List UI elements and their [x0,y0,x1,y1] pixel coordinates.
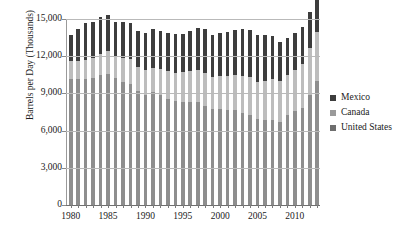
legend-item-canada: Canada [330,105,392,120]
bar-segment-united-states [301,108,305,205]
legend-label-mexico: Mexico [341,90,370,105]
bar-segment-united-states [233,110,237,205]
x-tick-mark [108,205,109,208]
y-tick-mark [62,93,66,94]
bar-segment-canada [166,71,170,98]
x-tick-mark [205,205,206,208]
bar-segment-canada [301,64,305,108]
x-tick-mark [145,205,146,208]
bar [293,33,297,205]
bar-segment-united-states [286,115,290,205]
x-tick-mark [138,205,139,208]
bar-segment-mexico [136,31,140,67]
bar-segment-canada [144,70,148,94]
bar-segment-united-states [121,82,125,205]
bar-segment-canada [136,67,140,91]
bar-segment-canada [114,56,118,78]
bar-segment-mexico [256,35,260,82]
bar-segment-united-states [144,95,148,205]
x-tick-mark [228,205,229,208]
bar-segment-mexico [151,29,155,68]
y-tick-mark [62,19,66,20]
bar-segment-united-states [278,122,282,205]
bar-segment-mexico [174,34,178,73]
bar-segment-united-states [188,102,192,205]
bar-segment-mexico [121,22,125,58]
bar [69,35,73,205]
x-tick-mark [272,205,273,208]
bar-segment-canada [293,70,297,111]
legend-swatch-united-states-icon [330,125,336,131]
bar-segment-united-states [226,110,230,205]
bar-segment-mexico [263,35,267,81]
y-tick-mark [62,168,66,169]
plot-area [66,19,320,205]
bar [278,42,282,205]
x-tick-mark [101,205,102,208]
bar-segment-united-states [218,109,222,205]
x-tick-mark [168,205,169,208]
bar-segment-mexico [293,33,297,70]
bar-segment-mexico [144,33,148,70]
bar [271,36,275,205]
bar [263,35,267,205]
bar-segment-united-states [151,92,155,205]
bar-segment-mexico [315,0,319,32]
bar [218,33,222,205]
bar [114,22,118,205]
bar-segment-canada [76,61,80,79]
x-tick-mark [183,205,184,208]
bar-segment-united-states [263,120,267,205]
x-tick-mark [295,205,296,208]
x-tick-mark [116,205,117,208]
x-tick-mark [213,205,214,208]
y-tick-mark [62,56,66,57]
bar-segment-mexico [203,29,207,72]
x-tick-label: 2010 [275,211,315,221]
x-tick-label: 1980 [51,211,91,221]
bar [315,0,319,205]
bar-group [67,19,320,205]
x-axis-line [66,205,320,206]
x-tick-mark [235,205,236,208]
bar [174,34,178,205]
x-tick-mark [280,205,281,208]
bar [196,28,200,205]
x-tick-mark [250,205,251,208]
bar [301,27,305,205]
x-tick-mark [71,205,72,208]
y-tick-mark [62,205,66,206]
x-tick-mark [310,205,311,208]
legend-label-united-states: United States [341,120,392,135]
bar-segment-canada [188,71,192,102]
bar-segment-united-states [84,79,88,205]
bar-segment-united-states [241,113,245,205]
x-tick-label: 1985 [88,211,128,221]
bar [286,38,290,205]
gridline [66,131,320,132]
gridline [66,56,320,57]
bar-segment-canada [196,70,200,102]
bar [136,31,140,205]
bar-segment-united-states [181,102,185,205]
legend-swatch-mexico-icon [330,95,336,101]
x-tick-mark [86,205,87,208]
bar [308,12,312,205]
legend: Mexico Canada United States [330,90,392,135]
bar-segment-canada [248,77,252,115]
bar-segment-united-states [136,91,140,205]
legend-swatch-canada-icon [330,110,336,116]
bar-segment-canada [84,60,88,78]
bar-segment-united-states [293,111,297,205]
x-tick-mark [123,205,124,208]
bar [256,35,260,205]
bar-segment-canada [256,82,260,120]
bar-segment-mexico [99,17,103,54]
bar-segment-united-states [211,109,215,205]
bar-segment-mexico [159,31,163,69]
x-tick-label: 1990 [125,211,165,221]
legend-label-canada: Canada [341,105,370,120]
bar-segment-united-states [76,79,80,205]
bar [211,35,215,205]
y-tick-label: 6,000 [2,126,62,136]
